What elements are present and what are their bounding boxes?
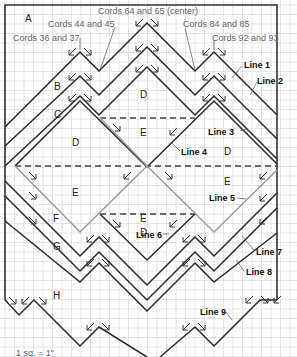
region-e-top: E: [140, 127, 147, 138]
arrow-down-left-icon: [22, 297, 29, 304]
arrow-down-right-icon: [165, 172, 172, 179]
label-line-4: Line 4: [181, 147, 207, 157]
arrow-down-right-icon: [29, 192, 36, 199]
label-cords-92-93: Cords 92 and 93: [212, 33, 279, 43]
label-line-5: Line 5: [209, 193, 235, 203]
region-f: F: [53, 213, 59, 224]
label-cords-36-37: Cords 36 and 37: [13, 33, 80, 43]
line-3-cord: [5, 67, 277, 166]
label-cords-64-65: Cords 64 and 65 (center): [98, 6, 198, 16]
frame-border: [5, 5, 277, 300]
region-e-left: E: [72, 187, 79, 198]
arrow-down-left-icon: [203, 73, 210, 80]
region-h: H: [53, 290, 60, 301]
arrow-down-right-icon: [39, 297, 46, 304]
macrame-diagram: Cords 64 and 65 (center) Cords 44 and 45…: [0, 0, 297, 357]
label-line-2: Line 2: [257, 76, 283, 86]
arrow-down-left-icon: [203, 48, 210, 55]
arrow-down-left-icon: [136, 44, 143, 51]
region-b: B: [54, 81, 61, 92]
region-g: G: [53, 241, 61, 252]
arrow-down-left-icon: [260, 172, 267, 179]
label-line-1: Line 1: [244, 60, 270, 70]
label-line-6: Line 6: [136, 230, 162, 240]
arrow-down-left-icon: [69, 48, 76, 55]
arrow-down-right-icon: [29, 172, 36, 179]
arrow-down-right-icon: [198, 323, 205, 330]
region-c: C: [54, 109, 61, 120]
arrow-down-left-icon: [136, 65, 143, 72]
region-a: A: [25, 13, 32, 24]
arrow-down-right-icon: [218, 48, 225, 55]
arrow-down-left-icon: [124, 172, 131, 179]
region-e-bottom: E: [140, 213, 147, 224]
leader-cords-84-85: [185, 28, 195, 70]
label-cords-44-45: Cords 44 and 45: [48, 19, 115, 29]
label-line-7: Line 7: [256, 247, 282, 257]
line-7-cord: [5, 196, 277, 300]
arrow-down-left-icon: [136, 19, 143, 26]
arrow-down-right-icon: [9, 297, 16, 304]
arrow-down-left-icon: [69, 73, 76, 80]
arrow-down-right-icon: [84, 48, 91, 55]
line-5-inner-cord: [100, 118, 147, 166]
label-line-8: Line 8: [246, 267, 272, 277]
region-d-right: D: [224, 146, 231, 157]
arrow-down-left-icon: [183, 235, 190, 242]
region-e-right: E: [224, 176, 231, 187]
leader-line-5: [237, 198, 246, 199]
region-d-top: D: [140, 89, 147, 100]
label-line-3: Line 3: [208, 127, 234, 137]
arrow-down-left-icon: [183, 323, 190, 330]
arrow-down-right-icon: [218, 73, 225, 80]
label-cords-84-85: Cords 84 and 85: [183, 19, 250, 29]
label-line-9: Line 9: [200, 307, 226, 317]
scale-note: 1 sq. = 1": [16, 348, 54, 357]
grid-background: [0, 0, 297, 357]
region-d-left: D: [72, 137, 79, 148]
arrow-down-left-icon: [260, 217, 267, 224]
arrow-down-right-icon: [84, 73, 91, 80]
